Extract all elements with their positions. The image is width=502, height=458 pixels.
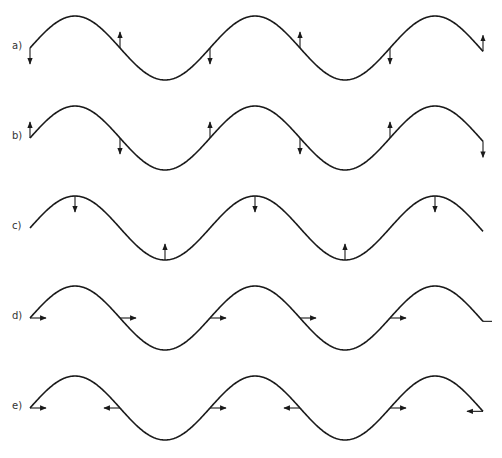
sine-wave: [30, 286, 483, 350]
wave-row-a: [30, 16, 483, 80]
sine-wave: [30, 106, 483, 170]
wave-row-d: [30, 286, 492, 350]
sine-wave: [30, 376, 483, 440]
wave-row-e: [30, 376, 483, 440]
wave-row-b: [30, 106, 483, 170]
sine-wave: [30, 16, 483, 80]
wave-diagram: [0, 0, 502, 458]
wave-row-c: [30, 196, 483, 260]
sine-wave: [30, 196, 483, 260]
